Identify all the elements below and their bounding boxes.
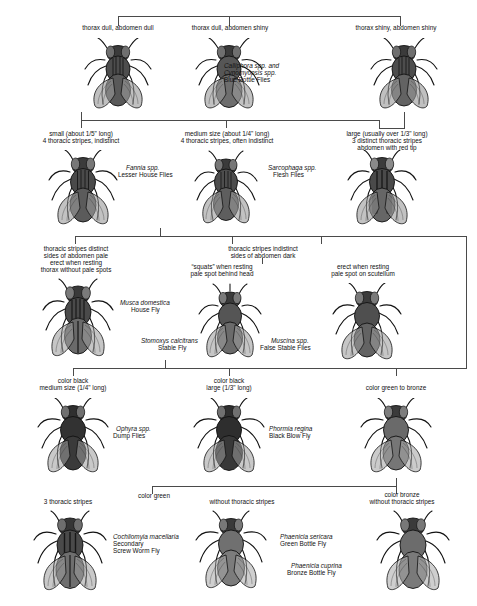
fly-illustration-phaenicia-cuprina: [375, 510, 451, 596]
connector-line: [73, 368, 74, 376]
condition-phaenicia-sericara: without thoracic stripes: [180, 498, 304, 505]
fly-illustration-medium-four-stripes: [192, 150, 260, 230]
condition-medium-line2: 4 thoracic stripes, often indistinct: [148, 137, 306, 144]
connector-line: [118, 16, 400, 17]
connector-line: [396, 478, 397, 486]
condition-cochliomyia: 3 thoracic stripes: [16, 498, 120, 505]
condition-thorax-dull-abdomen-shiny: thorax dull, abdomen shiny: [140, 24, 320, 31]
condition-green-to-bronze: color green to bronze: [334, 384, 458, 391]
fly-illustration-sarcophaga: [346, 150, 418, 230]
fly-illustration-cochliomyia-macellaria: [32, 510, 108, 596]
condition-phormia-line2: large (1/3" long): [177, 384, 281, 391]
common-name-false-stable-flies: False Stable Flies: [260, 344, 380, 351]
fly-identification-key-diagram: thorax dull, abdomen dull thorax dull, a…: [0, 0, 477, 606]
connector-line: [152, 486, 397, 487]
condition-small-fannia-line2: 4 thoracic stripes, indistinct: [14, 137, 148, 144]
fly-illustration-muscina: [331, 283, 403, 365]
fly-illustration-thorax-shiny-abdomen-shiny: [368, 38, 440, 112]
connector-line: [466, 236, 467, 368]
connector-line: [321, 236, 467, 237]
fly-illustration-phormia-regina: [193, 398, 265, 478]
condition-musca-line4: thorax without pale spots: [10, 266, 142, 273]
connector-line: [321, 236, 322, 244]
fly-illustration-green-to-bronze: [360, 398, 432, 478]
connector-line: [165, 360, 166, 368]
connector-line: [379, 120, 380, 128]
connector-line: [229, 368, 230, 376]
connector-line: [75, 236, 76, 244]
condition-stomoxys-line2: pale spot behind head: [152, 270, 292, 277]
condition-ophyra-line2: medium size (1/4" long): [20, 384, 126, 391]
fly-illustration-musca-domestica: [40, 278, 116, 362]
fly-illustration-phaenicia-sericara: [195, 510, 267, 594]
connector-line: [226, 120, 227, 128]
connector-line: [81, 120, 82, 128]
group-condition-stripes-indistinct-line2: sides of abdomen dark: [196, 252, 330, 259]
common-name-blue-bottle-flies: Blue Bottle Flies: [224, 76, 334, 83]
connector-line: [75, 236, 321, 237]
connector-line: [232, 236, 233, 244]
fly-illustration-thorax-dull-abdomen-dull: [82, 38, 154, 112]
condition-phaenicia-cuprina-line2: without thoracic stripes: [338, 498, 466, 505]
connector-line: [379, 128, 405, 129]
connector-line: [404, 112, 405, 128]
condition-thorax-shiny-abdomen-shiny: thorax shiny, abdomen shiny: [318, 24, 474, 31]
connector-line: [73, 368, 467, 369]
connector-line: [160, 228, 161, 236]
connector-line: [81, 112, 82, 120]
connector-line: [81, 120, 379, 121]
fly-illustration-fannia: [47, 150, 119, 230]
connector-line: [396, 368, 397, 376]
fly-illustration-ophyra: [37, 398, 109, 478]
condition-muscina-line2: pale spot on scutellum: [292, 270, 434, 277]
common-name-stable-fly: Stable Fly: [158, 344, 258, 351]
